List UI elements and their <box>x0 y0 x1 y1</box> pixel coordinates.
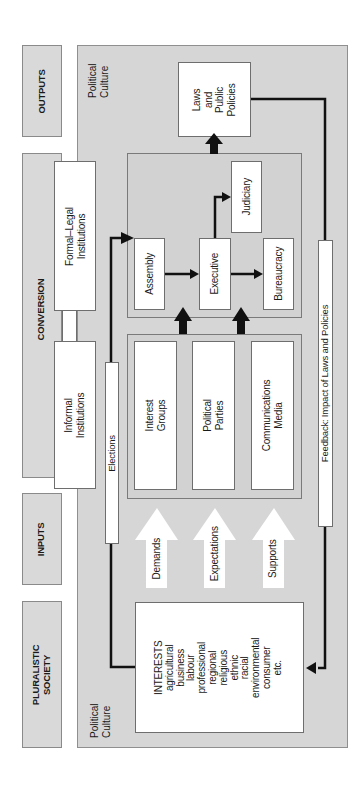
diagram-connectors <box>0 0 361 802</box>
intermediaries-to-assembly-arrow <box>174 307 192 321</box>
supports-arrow-label: Supports <box>263 530 284 588</box>
expectations-arrow-label: Expectations <box>204 520 225 588</box>
intermediaries-to-executive-arrow <box>232 307 250 321</box>
executive-to-bureaucracy-arrow-head <box>254 269 263 279</box>
demands-arrow-label: Demands <box>146 530 167 588</box>
feedback-label-box: Feedback: Impact of Laws and Policies <box>318 240 333 527</box>
conversion-to-laws-arrow <box>205 133 223 144</box>
demands-arrow <box>135 547 145 588</box>
feedback-arrow-head <box>306 662 316 674</box>
elections-label-box: Elections <box>105 362 119 544</box>
executive-to-judiciary-arrow-head <box>222 192 231 202</box>
assembly-to-executive-arrow-head <box>190 269 199 279</box>
elections-arrow-head <box>121 232 134 244</box>
